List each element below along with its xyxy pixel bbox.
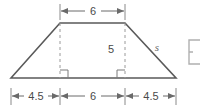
bottom-right-segment-label: 4.5 — [143, 90, 158, 102]
bottom-middle-arrow-start-icon — [61, 93, 68, 99]
slant-side-label: s — [155, 41, 159, 53]
top-dimension-group: 6 — [60, 4, 125, 20]
right-angle-marker-left-icon — [60, 70, 68, 78]
top-arrow-right-icon — [117, 8, 124, 14]
bottom-middle-arrow-end-icon — [117, 93, 124, 99]
height-label: 5 — [108, 43, 114, 55]
bottom-right-arrow-start-icon — [126, 93, 133, 99]
geometry-figure: 6 5 s 4.5 — [0, 0, 200, 112]
bottom-right-arrow-end-icon — [168, 93, 175, 99]
trapezoid-diagram-svg: 6 5 s 4.5 — [0, 0, 200, 112]
bottom-left-arrow-end-icon — [52, 93, 59, 99]
trapezoid-outline — [11, 23, 176, 78]
bottom-middle-segment-label: 6 — [90, 90, 96, 102]
bracket-fragment-icon — [189, 40, 200, 64]
top-base-label: 6 — [90, 5, 96, 17]
bottom-left-segment-label: 4.5 — [28, 90, 43, 102]
right-angle-marker-right-icon — [117, 70, 125, 78]
bottom-left-arrow-start-icon — [12, 93, 19, 99]
top-arrow-left-icon — [61, 8, 68, 14]
bottom-dimension-group: 4.5 6 4.5 — [11, 88, 176, 105]
